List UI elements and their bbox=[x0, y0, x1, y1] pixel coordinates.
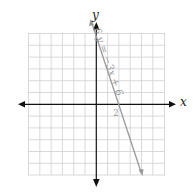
y-axis-label: y bbox=[92, 8, 99, 22]
axes bbox=[24, 27, 170, 181]
x-intercept-label: 2 bbox=[113, 108, 119, 118]
x-axis-left-arrow bbox=[18, 101, 25, 108]
x-axis-label: x bbox=[180, 95, 187, 109]
y-axis-down-arrow bbox=[93, 179, 100, 187]
x-axis-right-arrow bbox=[169, 101, 176, 108]
